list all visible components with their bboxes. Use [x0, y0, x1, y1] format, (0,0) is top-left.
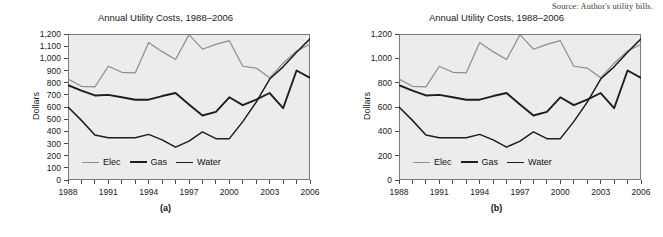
y-tick-label: 700 [18, 90, 61, 100]
x-tick-mark [283, 180, 284, 184]
x-tick-mark [399, 180, 400, 184]
x-tick-mark [452, 180, 453, 184]
series-line-gas [399, 71, 641, 116]
x-tick-label: 1997 [511, 187, 530, 197]
x-tick-mark [175, 180, 176, 184]
y-tick-mark [64, 155, 68, 156]
x-tick-label: 2000 [551, 187, 570, 197]
legend-swatch-gas-icon [130, 161, 147, 163]
x-tick-label: 1994 [470, 187, 489, 197]
y-tick-mark [64, 70, 68, 71]
x-tick-mark [215, 180, 216, 184]
series-line-elec [68, 35, 310, 87]
y-tick-label: 600 [18, 102, 61, 112]
x-tick-mark [162, 180, 163, 184]
legend-label: Elec [434, 157, 452, 167]
x-tick-mark [573, 180, 574, 184]
x-tick-mark [202, 180, 203, 184]
legend-item-gas: Gas [461, 157, 499, 167]
y-tick-mark [395, 34, 399, 35]
x-tick-mark [412, 180, 413, 184]
y-tick-label: 800 [349, 78, 392, 88]
series-line-water [68, 39, 310, 147]
legend-item-elec: Elec [82, 157, 121, 167]
chart-title-b: Annual Utility Costs, 1988–2006 [331, 12, 662, 23]
series-line-gas [68, 71, 310, 116]
y-tick-mark [64, 34, 68, 35]
x-tick-mark [148, 180, 149, 184]
y-tick-mark [395, 107, 399, 108]
y-tick-label: 0 [349, 175, 392, 185]
x-tick-mark [189, 180, 190, 184]
chart-panel-b: Annual Utility Costs, 1988–2006 Dollars … [331, 0, 662, 237]
y-tick-mark [395, 155, 399, 156]
x-tick-mark [493, 180, 494, 184]
panel-caption-b: (b) [331, 203, 662, 213]
x-tick-label: 2006 [632, 187, 651, 197]
series-line-water [399, 39, 641, 147]
x-tick-label: 1988 [59, 187, 78, 197]
x-tick-mark [242, 180, 243, 184]
chart-title-a: Annual Utility Costs, 1988–2006 [0, 12, 331, 23]
y-tick-mark [64, 94, 68, 95]
y-tick-label: 200 [18, 151, 61, 161]
y-tick-label: 200 [349, 151, 392, 161]
x-tick-mark [94, 180, 95, 184]
legend-b: ElecGasWater [413, 157, 552, 167]
x-tick-mark [81, 180, 82, 184]
x-tick-mark [546, 180, 547, 184]
x-tick-label: 1994 [139, 187, 158, 197]
y-tick-mark [64, 82, 68, 83]
y-tick-label: 1,200 [349, 29, 392, 39]
panel-caption-a: (a) [0, 203, 331, 213]
x-tick-mark [479, 180, 480, 184]
x-tick-mark [439, 180, 440, 184]
y-tick-mark [395, 131, 399, 132]
legend-a: ElecGasWater [82, 157, 221, 167]
y-tick-label: 500 [18, 114, 61, 124]
x-tick-mark [296, 180, 297, 184]
x-tick-mark [533, 180, 534, 184]
y-tick-mark [64, 119, 68, 120]
y-tick-label: 1,200 [18, 29, 61, 39]
y-tick-label: 0 [18, 175, 61, 185]
legend-label: Water [197, 157, 221, 167]
y-tick-mark [395, 82, 399, 83]
legend-swatch-elec-icon [413, 162, 430, 163]
legend-swatch-elec-icon [82, 162, 99, 163]
legend-item-water: Water [176, 157, 221, 167]
x-tick-mark [520, 180, 521, 184]
y-tick-mark [64, 143, 68, 144]
x-tick-mark [108, 180, 109, 184]
x-tick-mark [256, 180, 257, 184]
x-tick-mark [229, 180, 230, 184]
chart-panels: Annual Utility Costs, 1988–2006 Dollars … [0, 0, 663, 237]
x-tick-mark [614, 180, 615, 184]
x-tick-mark [600, 180, 601, 184]
legend-swatch-gas-icon [461, 161, 478, 163]
x-tick-label: 1997 [180, 187, 199, 197]
series-line-elec [399, 35, 641, 87]
x-tick-mark [627, 180, 628, 184]
y-tick-mark [64, 58, 68, 59]
x-tick-mark [560, 180, 561, 184]
y-tick-mark [64, 107, 68, 108]
x-tick-label: 1991 [430, 187, 449, 197]
y-tick-label: 1,100 [18, 41, 61, 51]
legend-swatch-water-icon [176, 162, 193, 163]
x-tick-label: 2006 [301, 187, 320, 197]
x-tick-mark [121, 180, 122, 184]
x-tick-mark [135, 180, 136, 184]
y-tick-label: 100 [18, 163, 61, 173]
x-tick-mark [68, 180, 69, 184]
y-tick-label: 1,000 [18, 53, 61, 63]
x-tick-label: 1991 [99, 187, 118, 197]
x-tick-label: 2000 [220, 187, 239, 197]
x-tick-label: 1988 [390, 187, 409, 197]
legend-item-elec: Elec [413, 157, 452, 167]
x-tick-label: 2003 [591, 187, 610, 197]
y-tick-mark [64, 131, 68, 132]
y-tick-mark [64, 46, 68, 47]
legend-label: Elec [103, 157, 121, 167]
legend-swatch-water-icon [507, 162, 524, 163]
